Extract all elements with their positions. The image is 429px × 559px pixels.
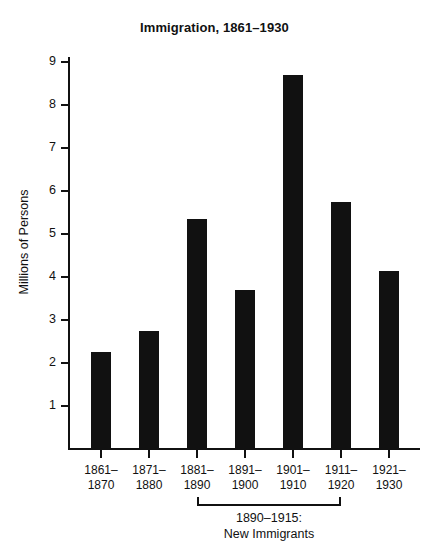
y-tick-6	[61, 190, 69, 192]
x-tick-1	[148, 450, 150, 458]
bar-1861–1870	[91, 352, 111, 449]
bar-1891–1900	[235, 290, 255, 449]
x-tick-label-6-line-1: 1921–	[359, 463, 419, 478]
y-tick-label-8: 8	[30, 98, 56, 110]
bracket-tip-right	[339, 497, 341, 506]
x-tick-label-6: 1921–1930	[359, 463, 419, 493]
y-tick-label-3: 3	[30, 313, 56, 325]
chart-title: Immigration, 1861–1930	[0, 20, 429, 35]
y-tick-label-5: 5	[30, 227, 56, 239]
y-tick-1	[61, 405, 69, 407]
y-tick-label-2: 2	[30, 356, 56, 368]
y-tick-8	[61, 104, 69, 106]
x-tick-4	[292, 450, 294, 458]
bracket-span	[197, 504, 341, 506]
y-tick-label-9: 9	[30, 55, 56, 67]
y-tick-2	[61, 362, 69, 364]
y-tick-4	[61, 276, 69, 278]
x-tick-label-6-line-2: 1930	[359, 478, 419, 493]
x-tick-2	[196, 450, 198, 458]
bar-1901–1910	[283, 75, 303, 449]
bar-1881–1890	[187, 219, 207, 449]
y-tick-9	[61, 61, 69, 63]
bar-1911–1920	[331, 202, 351, 449]
annotation-line-1: 1890–1915:	[139, 510, 399, 526]
x-tick-0	[100, 450, 102, 458]
y-tick-label-4: 4	[30, 270, 56, 282]
annotation-label: 1890–1915: New Immigrants	[139, 510, 399, 542]
x-tick-6	[388, 450, 390, 458]
y-tick-3	[61, 319, 69, 321]
x-tick-5	[340, 450, 342, 458]
immigration-bar-chart: Immigration, 1861–1930 Millions of Perso…	[0, 0, 429, 559]
y-tick-label-6: 6	[30, 184, 56, 196]
y-axis-title: Millions of Persons	[17, 157, 31, 327]
y-axis-line	[68, 57, 70, 450]
annotation-line-2: New Immigrants	[139, 526, 399, 542]
y-tick-7	[61, 147, 69, 149]
annotation-bracket	[197, 496, 341, 506]
bar-1871–1880	[139, 331, 159, 449]
y-tick-5	[61, 233, 69, 235]
y-tick-label-1: 1	[30, 399, 56, 411]
bar-1921–1930	[379, 271, 399, 449]
x-tick-3	[244, 450, 246, 458]
y-tick-label-7: 7	[30, 141, 56, 153]
